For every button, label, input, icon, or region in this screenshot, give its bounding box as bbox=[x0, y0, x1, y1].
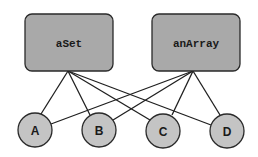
containers: aSetanArray bbox=[25, 14, 240, 71]
node-label: D bbox=[223, 125, 232, 139]
node-a: A bbox=[18, 113, 52, 147]
container-label: aSet bbox=[56, 38, 82, 50]
nodes: ABCD bbox=[18, 113, 244, 148]
node-b: B bbox=[82, 113, 116, 147]
edge-aset-a bbox=[41, 71, 68, 114]
set-array-diagram: aSetanArray ABCD bbox=[0, 0, 258, 157]
node-label: B bbox=[95, 124, 104, 138]
container-label: anArray bbox=[173, 38, 220, 50]
edges bbox=[41, 71, 220, 125]
edge-anarray-d bbox=[193, 71, 220, 115]
container-aset: aSet bbox=[25, 14, 113, 71]
node-label: A bbox=[31, 124, 40, 138]
container-anarray: anArray bbox=[152, 14, 240, 71]
node-c: C bbox=[146, 114, 180, 148]
node-label: C bbox=[159, 125, 168, 139]
node-d: D bbox=[210, 114, 244, 148]
